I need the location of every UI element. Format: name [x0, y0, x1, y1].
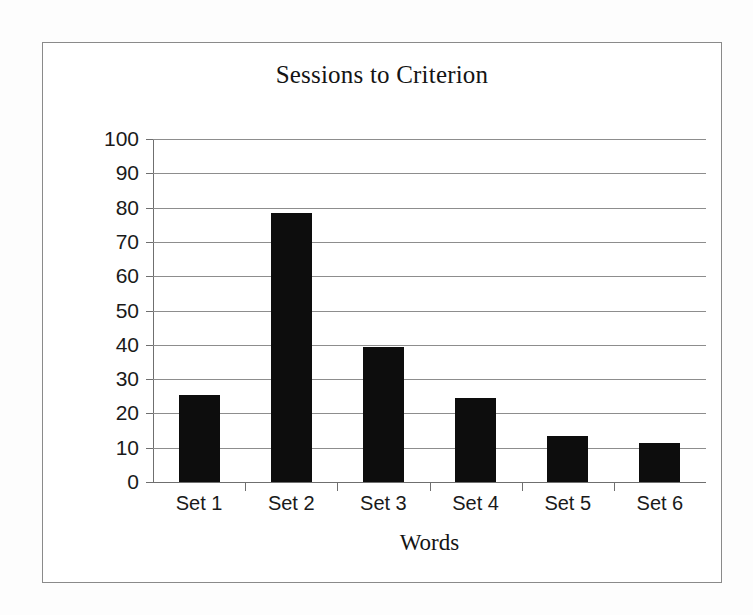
bar	[179, 395, 220, 482]
y-axis-tick-label: 30	[79, 368, 139, 389]
x-axis-category-label: Set 4	[430, 492, 522, 515]
y-axis-tick-label: 40	[79, 334, 139, 355]
chart-screenshot: Sessions to Criterion 100908070605040302…	[0, 0, 753, 615]
x-axis-title: Words	[153, 530, 706, 556]
gridline	[153, 208, 706, 209]
bar	[455, 398, 496, 482]
x-axis-tick	[337, 482, 338, 491]
gridline	[153, 276, 706, 277]
y-axis-tick-label: 70	[79, 231, 139, 252]
x-axis-tick	[245, 482, 246, 491]
bar	[363, 347, 404, 482]
x-axis-tick	[522, 482, 523, 491]
bar	[547, 436, 588, 482]
y-axis-tick-label: 50	[79, 300, 139, 321]
x-axis-category-label: Set 5	[522, 492, 614, 515]
bar	[271, 213, 312, 482]
y-axis-tick-label: 90	[79, 162, 139, 183]
plot-area	[153, 139, 706, 482]
bar	[639, 443, 680, 482]
gridline	[153, 173, 706, 174]
y-axis-tick-label: 80	[79, 197, 139, 218]
gridline	[153, 345, 706, 346]
y-axis-tick-label: 10	[79, 437, 139, 458]
gridline	[153, 379, 706, 380]
y-axis-tick-label: 20	[79, 402, 139, 423]
chart-title: Sessions to Criterion	[43, 61, 721, 89]
x-axis-category-label: Set 1	[153, 492, 245, 515]
x-axis-category-label: Set 6	[614, 492, 706, 515]
x-axis-category-label: Set 3	[337, 492, 429, 515]
x-axis-tick	[430, 482, 431, 491]
y-axis-tick-label: 0	[79, 471, 139, 492]
chart-frame: Sessions to Criterion 100908070605040302…	[42, 42, 722, 583]
gridline	[153, 139, 706, 140]
gridline	[153, 448, 706, 449]
x-axis-category-label: Set 2	[245, 492, 337, 515]
y-axis-tick-label: 60	[79, 265, 139, 286]
gridline	[153, 413, 706, 414]
gridline	[153, 311, 706, 312]
gridline	[153, 242, 706, 243]
y-axis-tick-label: 100	[79, 128, 139, 149]
x-axis-tick	[614, 482, 615, 491]
